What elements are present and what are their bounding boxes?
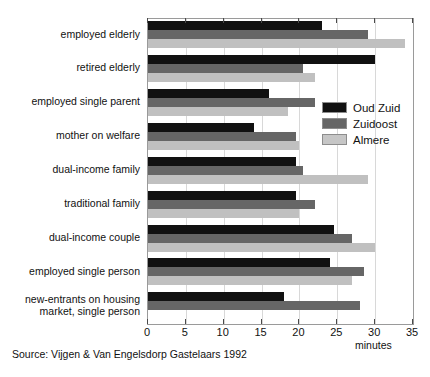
- x-tick-label: 35: [397, 326, 427, 338]
- legend-label-oud-zuid: Oud Zuid: [353, 102, 400, 114]
- x-tick-mark: [298, 319, 299, 324]
- bar: [148, 64, 303, 73]
- category-label: employed elderly: [61, 28, 140, 40]
- bar: [148, 73, 315, 82]
- bar: [148, 191, 296, 200]
- bar: [148, 132, 296, 141]
- category-label: dual-income family: [52, 163, 140, 175]
- x-tick-mark: [374, 18, 375, 23]
- x-tick-mark: [412, 18, 413, 23]
- legend-item-almere: Almere: [322, 132, 418, 147]
- category-axis-labels: employed elderlyretired elderlyemployed …: [0, 18, 143, 323]
- bar: [148, 98, 315, 107]
- bar: [148, 267, 364, 276]
- legend-item-oud-zuid: Oud Zuid: [322, 100, 418, 115]
- bar: [148, 39, 405, 48]
- category-label: employed single person: [29, 265, 140, 277]
- bar: [148, 175, 368, 184]
- source-note: Source: Vijgen & Van Engelsdorp Gastelaa…: [12, 348, 247, 360]
- category-label: mother on welfare: [56, 129, 140, 141]
- x-tick-mark: [147, 18, 148, 23]
- bar: [148, 166, 303, 175]
- bar: [148, 21, 322, 30]
- x-tick-label: 0: [132, 326, 162, 338]
- bar: [148, 243, 375, 252]
- bar: [148, 276, 352, 285]
- legend-swatch-almere: [322, 134, 347, 145]
- x-tick-mark: [374, 319, 375, 324]
- x-tick-mark: [336, 18, 337, 23]
- x-tick-label: 15: [246, 326, 276, 338]
- bar: [148, 209, 299, 218]
- x-tick-label: 20: [283, 326, 313, 338]
- x-tick-mark: [336, 319, 337, 324]
- bar: [148, 225, 334, 234]
- chart-legend: Oud Zuid Zuidoost Almere: [322, 100, 418, 148]
- bar: [148, 234, 352, 243]
- gridline: [375, 19, 376, 324]
- legend-swatch-oud-zuid: [322, 102, 347, 113]
- legend-item-zuidoost: Zuidoost: [322, 116, 418, 131]
- x-tick-label: 10: [208, 326, 238, 338]
- bar: [148, 89, 269, 98]
- category-label: employed single parent: [31, 95, 140, 107]
- category-label: traditional family: [64, 197, 140, 209]
- bar: [148, 30, 368, 39]
- x-tick-mark: [223, 18, 224, 23]
- plot-area: [147, 18, 414, 325]
- x-tick-label: 5: [170, 326, 200, 338]
- bar: [148, 292, 284, 301]
- x-tick-mark: [223, 319, 224, 324]
- legend-label-almere: Almere: [353, 134, 389, 146]
- category-label: dual-income couple: [49, 231, 140, 243]
- bar-chart-figure: employed elderlyretired elderlyemployed …: [0, 0, 430, 377]
- bar: [148, 301, 360, 310]
- x-tick-mark: [185, 319, 186, 324]
- x-tick-mark: [185, 18, 186, 23]
- bar: [148, 200, 315, 209]
- bar: [148, 258, 330, 267]
- category-label: retired elderly: [76, 61, 140, 73]
- bar: [148, 157, 296, 166]
- bar: [148, 107, 288, 116]
- x-axis-title: minutes: [355, 339, 392, 351]
- bar: [148, 141, 299, 150]
- x-tick-mark: [298, 18, 299, 23]
- x-tick-mark: [261, 18, 262, 23]
- x-tick-mark: [147, 319, 148, 324]
- legend-swatch-zuidoost: [322, 118, 347, 129]
- x-tick-label: 30: [359, 326, 389, 338]
- x-tick-mark: [261, 319, 262, 324]
- category-label: new-entrants on housingmarket, single pe…: [25, 293, 140, 317]
- legend-label-zuidoost: Zuidoost: [353, 118, 397, 130]
- x-tick-mark: [412, 319, 413, 324]
- bar: [148, 123, 254, 132]
- x-tick-label: 25: [321, 326, 351, 338]
- bar: [148, 55, 375, 64]
- gridline: [413, 19, 414, 324]
